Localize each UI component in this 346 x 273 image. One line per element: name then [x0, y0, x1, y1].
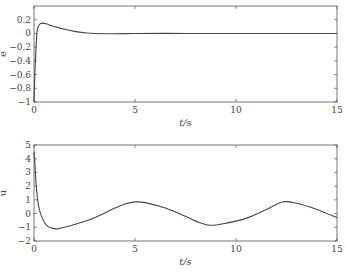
y-axis-label: u [0, 189, 8, 196]
chart-top: 051015−1−0.8−0.6−0.4−0.200.2et/s [0, 6, 343, 128]
y-tick-label: 2 [25, 181, 31, 191]
y-tick-label: −1 [18, 97, 31, 107]
x-tick-label: 15 [331, 244, 343, 254]
y-tick-label: 5 [25, 140, 31, 150]
y-tick-label: −1 [18, 222, 31, 232]
y-tick-label: −2 [18, 236, 31, 246]
x-tick-label: 0 [31, 105, 37, 115]
y-tick-label: −0.6 [9, 70, 31, 80]
plot-frame [34, 6, 337, 102]
x-tick-label: 15 [331, 105, 343, 115]
y-tick-label: 4 [25, 154, 31, 164]
x-tick-label: 0 [31, 244, 37, 254]
series-line-u [34, 152, 337, 229]
y-tick-label: 1 [25, 195, 31, 205]
x-axis-label: t/s [179, 117, 192, 128]
y-tick-label: −0.2 [9, 42, 31, 52]
plot-frame [34, 145, 337, 241]
x-axis-label: t/s [179, 256, 192, 267]
y-tick-label: 0 [25, 209, 31, 219]
y-tick-label: −0.8 [9, 83, 31, 93]
x-tick-label: 5 [132, 244, 138, 254]
y-tick-label: −0.4 [9, 56, 31, 66]
x-tick-label: 5 [132, 105, 138, 115]
x-tick-label: 10 [230, 105, 242, 115]
figure: 051015−1−0.8−0.6−0.4−0.200.2et/s051015−2… [0, 0, 346, 273]
y-tick-label: 0 [25, 28, 31, 38]
series-line-e [34, 23, 337, 102]
y-axis-label: e [0, 51, 8, 57]
y-tick-label: 0.2 [17, 15, 31, 25]
chart-bottom: 051015−2−1012345ut/s [0, 140, 343, 267]
y-tick-label: 3 [25, 167, 31, 177]
x-tick-label: 10 [230, 244, 242, 254]
